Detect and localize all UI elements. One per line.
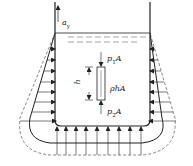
fluid-column [97,67,105,100]
acceleration-label: ay [62,19,70,29]
height-dimension [85,67,93,100]
weight-label: ρhA [110,85,126,93]
diagram-canvas [0,0,193,166]
right-pressure-arrows [149,49,176,121]
bottom-force-label: p2A [107,108,121,118]
bottom-pressure-arrows [57,127,141,155]
height-label: h [74,79,82,84]
left-pressure-arrows [20,49,56,121]
top-force-label: p1A [107,55,121,65]
pressure-diagram: ay p1A h ρhA p2A [0,0,193,166]
surface-dashes [68,37,146,42]
